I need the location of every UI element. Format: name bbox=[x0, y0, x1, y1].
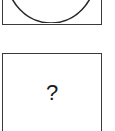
circle-icon bbox=[6, 0, 96, 23]
shape-selection-panel: ? bbox=[0, 0, 115, 131]
circle-option-tile[interactable] bbox=[2, 0, 102, 25]
question-mark-icon: ? bbox=[3, 81, 101, 105]
unknown-option-tile[interactable]: ? bbox=[2, 53, 102, 131]
